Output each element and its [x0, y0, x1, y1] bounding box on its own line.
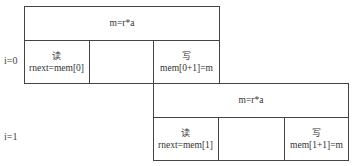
compute-expr: m=r*a — [239, 94, 264, 106]
compute-expr: m=r*a — [110, 17, 135, 29]
write-title: 写 — [182, 50, 191, 62]
write-stage: 写 mem[1+1]=m — [284, 117, 349, 161]
read-title: 读 — [52, 50, 61, 62]
compute-stage: m=r*a — [153, 83, 349, 117]
write-expr: mem[1+1]=m — [290, 139, 343, 151]
write-title: 写 — [312, 127, 321, 139]
write-stage: 写 mem[0+1]=m — [153, 40, 220, 84]
compute-stage: m=r*a — [24, 6, 220, 40]
idle-stage — [89, 40, 153, 84]
read-title: 读 — [181, 127, 190, 139]
write-expr: mem[0+1]=m — [160, 62, 213, 74]
read-stage: 读 rnext=mem[0] — [24, 40, 89, 84]
iteration-label-0: i=0 — [4, 55, 17, 66]
read-stage: 读 rnext=mem[1] — [153, 117, 218, 161]
idle-stage — [218, 117, 284, 161]
iteration-label-1: i=1 — [4, 131, 17, 142]
read-expr: rnext=mem[1] — [158, 139, 213, 151]
read-expr: rnext=mem[0] — [29, 62, 84, 74]
